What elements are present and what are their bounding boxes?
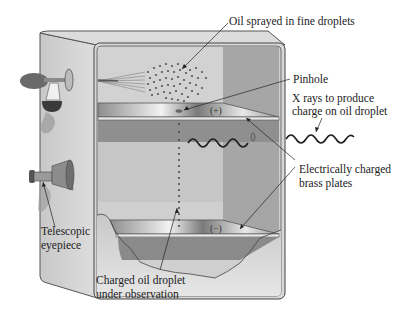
pinhole [176,109,183,113]
label-plates-2: brass plates [299,177,352,190]
label-pinhole: Pinhole [293,73,328,86]
plate-sign-top: (+) [210,106,222,117]
label-plates-1: Electrically charged [299,163,391,176]
label-eyepiece-1: Telescopic [41,225,90,238]
plate-sign-bottom: (−) [210,224,222,235]
label-droplet-1: Charged oil droplet [96,274,185,287]
label-xrays-2: charge on oil droplet [292,105,387,118]
millikan-apparatus-diagram: (+) (−) [0,0,405,312]
atomizer-bulb [20,73,48,89]
label-eyepiece-2: eyepiece [41,239,81,252]
label-xrays-1: X rays to produce [292,92,374,105]
label-droplet-2: under observation [96,288,179,301]
label-oil-spray: Oil sprayed in fine droplets [229,15,355,28]
